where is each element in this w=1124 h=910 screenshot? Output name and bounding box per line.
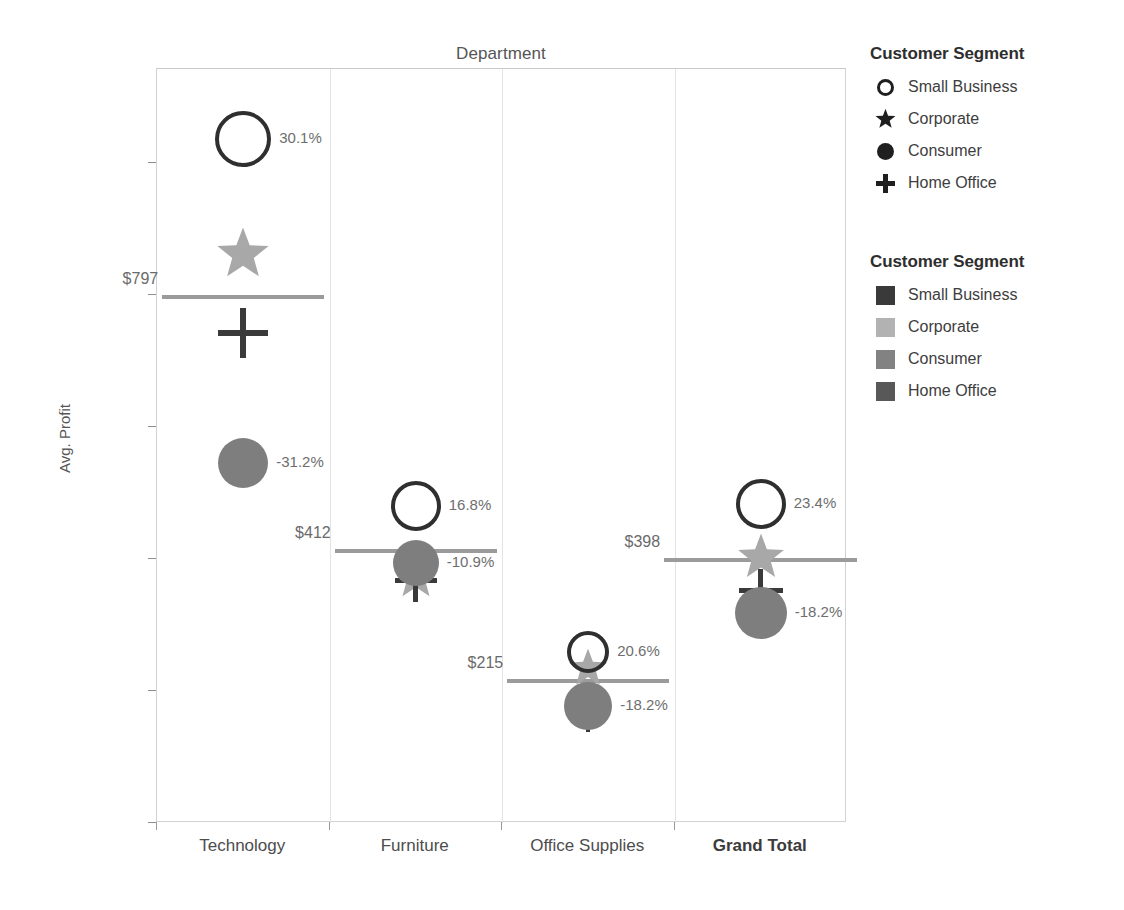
y-tick-mark <box>148 426 156 427</box>
x-tick-mark <box>674 822 675 830</box>
reference-line-label: $215 <box>427 654 503 672</box>
legend-item-label: Corporate <box>900 110 979 128</box>
x-tick-label: Grand Total <box>660 836 860 856</box>
legend-item[interactable]: Small Business <box>870 279 1124 311</box>
circle-open-icon <box>870 79 900 96</box>
column-divider <box>330 69 331 823</box>
x-tick-mark <box>329 822 330 830</box>
marker-corporate[interactable] <box>216 228 270 282</box>
data-point-label: 20.6% <box>617 642 660 659</box>
y-tick-mark <box>148 294 156 295</box>
swatch-icon <box>870 286 900 305</box>
data-point-label: -18.2% <box>620 696 668 713</box>
swatch-icon <box>870 350 900 369</box>
legend-item-label: Small Business <box>900 286 1017 304</box>
x-tick-label: Technology <box>142 836 342 856</box>
y-tick-mark <box>148 822 156 823</box>
reference-line-label: $398 <box>584 533 660 551</box>
legend-item[interactable]: Corporate <box>870 311 1124 343</box>
x-tick-label: Office Supplies <box>487 836 687 856</box>
legend-item-label: Home Office <box>900 382 997 400</box>
legend-item[interactable]: Home Office <box>870 167 1124 199</box>
y-tick-mark <box>148 558 156 559</box>
plot-area: $797$412$215$398-31.2%-10.9%-18.2%-18.2%… <box>156 68 846 822</box>
legend-color-rows: Small BusinessCorporateConsumerHome Offi… <box>870 279 1124 407</box>
legend-shape: Customer Segment Small BusinessCorporate… <box>870 44 1124 199</box>
reference-line <box>162 295 324 299</box>
data-point-label: -31.2% <box>276 453 324 470</box>
legend-item-label: Home Office <box>900 174 997 192</box>
legend-item[interactable]: Corporate <box>870 103 1124 135</box>
data-point-label: 16.8% <box>449 496 492 513</box>
data-point-label: -18.2% <box>795 603 843 620</box>
legend-item[interactable]: Consumer <box>870 135 1124 167</box>
marker-consumer[interactable] <box>735 587 787 639</box>
y-tick-mark <box>148 690 156 691</box>
legend-item-label: Small Business <box>900 78 1017 96</box>
reference-line-label: $797 <box>82 270 158 288</box>
column-divider <box>502 69 503 823</box>
column-divider <box>675 69 676 823</box>
legend-item[interactable]: Consumer <box>870 343 1124 375</box>
swatch-icon <box>870 382 900 401</box>
marker-small-business[interactable] <box>215 111 271 167</box>
legend-shape-rows: Small BusinessCorporateConsumerHome Offi… <box>870 71 1124 199</box>
data-point-label: 23.4% <box>794 494 837 511</box>
marker-small-business[interactable] <box>391 481 441 531</box>
chart-page: Department Avg. Profit $0$200$400$600$80… <box>0 0 1124 910</box>
marker-consumer[interactable] <box>218 438 268 488</box>
x-tick-mark <box>156 822 157 830</box>
marker-small-business[interactable] <box>736 479 786 529</box>
plus-icon <box>870 174 900 193</box>
data-point-label: -10.9% <box>447 553 495 570</box>
y-axis-title: Avg. Profit <box>56 369 73 509</box>
legend-item[interactable]: Small Business <box>870 71 1124 103</box>
marker-home-office[interactable] <box>218 308 268 358</box>
swatch-icon <box>870 318 900 337</box>
legend-shape-title: Customer Segment <box>870 44 1124 64</box>
legend-item-label: Consumer <box>900 350 982 368</box>
legend-item-label: Consumer <box>900 142 982 160</box>
circle-filled-icon <box>870 143 900 160</box>
x-tick-mark <box>501 822 502 830</box>
data-point-label: 30.1% <box>279 129 322 146</box>
y-tick-mark <box>148 162 156 163</box>
star-icon <box>870 109 900 130</box>
legend-color: Customer Segment Small BusinessCorporate… <box>870 252 1124 407</box>
x-tick-label: Furniture <box>315 836 515 856</box>
marker-consumer[interactable] <box>393 540 439 586</box>
legend-color-title: Customer Segment <box>870 252 1124 272</box>
chart-title: Department <box>156 44 846 64</box>
legend-item[interactable]: Home Office <box>870 375 1124 407</box>
marker-small-business[interactable] <box>567 631 609 673</box>
reference-line-label: $412 <box>255 524 331 542</box>
legend-item-label: Corporate <box>900 318 979 336</box>
